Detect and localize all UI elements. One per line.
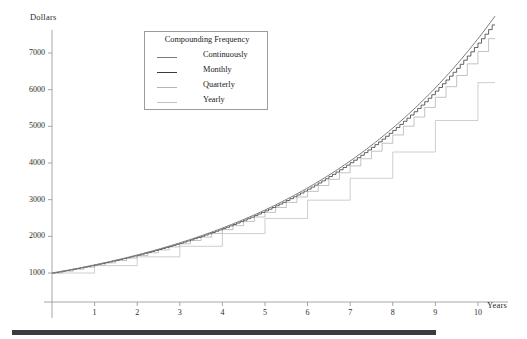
x-tick-label: 6 xyxy=(298,308,318,317)
footer-bar xyxy=(12,330,436,335)
x-tick-label: 2 xyxy=(127,308,147,317)
legend-entry-label: Quarterly xyxy=(203,80,235,89)
y-tick-label: 4000 xyxy=(11,158,45,167)
legend-entry-label: Yearly xyxy=(203,95,225,104)
series-line-monthly xyxy=(52,25,495,273)
legend-entry: Monthly xyxy=(145,65,269,80)
series-line-continuously xyxy=(52,16,495,273)
y-tick-label: 5000 xyxy=(11,121,45,130)
x-tick-label: 1 xyxy=(85,308,105,317)
y-tick-label: 2000 xyxy=(11,231,45,240)
legend-entry-label: Monthly xyxy=(203,65,232,74)
y-tick-label: 1000 xyxy=(11,268,45,277)
x-tick-label: 4 xyxy=(212,308,232,317)
data-series xyxy=(52,16,495,273)
legend-swatch-icon xyxy=(157,72,177,73)
legend-swatch-icon xyxy=(157,87,177,88)
legend-entry: Quarterly xyxy=(145,80,269,95)
series-line-yearly xyxy=(52,83,495,273)
legend-entry: Continuously xyxy=(145,50,269,65)
compound-interest-chart: Dollars Years 10002000300040005000600070… xyxy=(0,0,527,339)
x-tick-label: 7 xyxy=(340,308,360,317)
y-axis-title: Dollars xyxy=(30,12,56,22)
y-tick-label: 3000 xyxy=(11,195,45,204)
legend-entry-label: Continuously xyxy=(203,50,248,59)
y-tick-label: 7000 xyxy=(11,48,45,57)
x-tick-label: 8 xyxy=(383,308,403,317)
legend-swatch-icon xyxy=(157,57,177,58)
axes xyxy=(44,30,508,318)
x-tick-label: 5 xyxy=(255,308,275,317)
legend-swatch-icon xyxy=(157,102,177,103)
x-axis-title: Years xyxy=(487,300,507,310)
legend: Compounding Frequency ContinuouslyMonthl… xyxy=(144,31,268,110)
series-line-quarterly xyxy=(52,39,495,273)
x-tick-label: 3 xyxy=(170,308,190,317)
legend-title: Compounding Frequency xyxy=(145,35,269,44)
y-tick-label: 6000 xyxy=(11,85,45,94)
x-tick-label: 10 xyxy=(468,308,488,317)
legend-entry: Yearly xyxy=(145,95,269,110)
x-tick-label: 9 xyxy=(425,308,445,317)
